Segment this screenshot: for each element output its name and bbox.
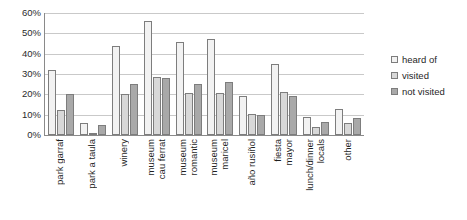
bar <box>130 84 138 135</box>
x-axis-tick-label-line: lunch/dinner <box>304 139 315 191</box>
x-axis-tick-label: lunch/dinnerlocals <box>299 139 331 219</box>
bar-group <box>300 13 332 135</box>
bar <box>335 109 343 135</box>
x-axis-labels: park garrafpark a taulawinerymuseumcau f… <box>44 137 364 220</box>
bar <box>303 117 311 135</box>
bar <box>185 93 193 135</box>
bar <box>344 123 352 135</box>
y-axis-tick-label: 0% <box>1 130 41 139</box>
bar <box>239 96 247 135</box>
y-axis-tick-label: 50% <box>1 28 41 37</box>
x-axis-tick-label: museumcau ferrat <box>140 139 172 219</box>
x-axis-tick-label: park garraf <box>44 139 76 219</box>
x-axis-tick-label-line: museum <box>145 139 156 175</box>
bar <box>289 96 297 135</box>
bar <box>98 125 106 135</box>
legend-item[interactable]: visited <box>391 68 467 82</box>
bar-group <box>332 13 364 135</box>
x-axis-tick-label-line: año rusiñol <box>246 139 257 185</box>
legend-swatch-icon <box>391 72 398 79</box>
y-axis-tick-label: 60% <box>1 8 41 17</box>
bar-group <box>205 13 237 135</box>
bar <box>248 114 256 135</box>
x-axis-tick-label-line: romantic <box>188 139 199 175</box>
y-axis-tick-label: 40% <box>1 49 41 58</box>
bar <box>48 70 56 135</box>
legend-item[interactable]: heard of <box>391 52 467 66</box>
bar-group <box>268 13 300 135</box>
bar-group <box>45 13 77 135</box>
y-axis: 60%50%40%30%20%10%0% <box>0 13 41 136</box>
x-axis-tick-label: museummaricel <box>204 139 236 219</box>
y-axis-tick-label: 20% <box>1 89 41 98</box>
x-axis-tick-label-line: locals <box>315 139 326 163</box>
chart-legend: heard ofvisitednot visited <box>391 52 467 100</box>
bar <box>353 118 361 135</box>
bar <box>312 127 320 135</box>
bar-chart: 60%50%40%30%20%10%0% park garrafpark a t… <box>0 0 467 220</box>
bar <box>225 82 233 135</box>
x-axis-tick-label-line: museum <box>208 139 219 175</box>
x-axis-tick-label-line: mayor <box>283 139 294 165</box>
legend-swatch-icon <box>391 56 398 63</box>
x-axis-tick-label-line: maricel <box>219 139 230 170</box>
bar <box>57 110 65 135</box>
bar <box>321 122 329 135</box>
x-axis-tick-label-line: other <box>342 139 353 161</box>
bar <box>207 39 215 135</box>
bar <box>153 77 161 135</box>
bar <box>144 21 152 135</box>
x-axis-tick-label: museumromantic <box>172 139 204 219</box>
x-axis-tick-label-line: cau ferrat <box>156 139 167 179</box>
bar <box>194 84 202 135</box>
bar <box>257 115 265 135</box>
legend-label: not visited <box>402 86 445 97</box>
plot-area <box>44 13 364 136</box>
bar-group <box>236 13 268 135</box>
bar <box>121 94 129 135</box>
x-axis-tick-label-line: winery <box>118 139 129 166</box>
bar-group <box>77 13 109 135</box>
legend-label: heard of <box>402 54 437 65</box>
bar-group <box>173 13 205 135</box>
y-axis-tick-label: 10% <box>1 110 41 119</box>
bar-group <box>109 13 141 135</box>
bar <box>162 78 170 135</box>
bar-group <box>141 13 173 135</box>
x-axis-tick-label-line: fiesta <box>272 139 283 162</box>
bar <box>271 64 279 135</box>
legend-item[interactable]: not visited <box>391 84 467 98</box>
bar <box>216 93 224 135</box>
x-axis-tick-label: fiestamayor <box>267 139 299 219</box>
y-axis-tick-label: 30% <box>1 69 41 78</box>
x-axis-tick-label-line: park garraf <box>54 139 65 185</box>
bar <box>66 94 74 135</box>
legend-label: visited <box>402 70 429 81</box>
bar <box>112 46 120 135</box>
x-axis-tick-label: winery <box>108 139 140 219</box>
x-axis-tick-label-line: park a taula <box>86 139 97 189</box>
x-axis-tick-label: año rusiñol <box>235 139 267 219</box>
bar <box>80 123 88 135</box>
bar <box>89 133 97 135</box>
bar <box>176 42 184 135</box>
bar <box>280 92 288 135</box>
x-axis-tick-label: park a taula <box>76 139 108 219</box>
x-axis-tick-label: other <box>331 139 363 219</box>
legend-swatch-icon <box>391 88 398 95</box>
x-axis-tick-label-line: museum <box>177 139 188 175</box>
